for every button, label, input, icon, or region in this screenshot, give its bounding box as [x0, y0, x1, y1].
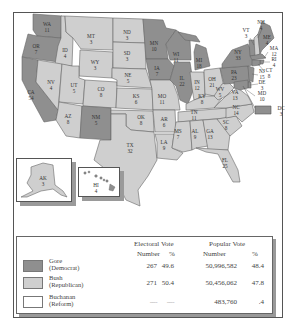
pv-number: 483,760: [214, 298, 237, 306]
alaska-shape: AK3: [17, 159, 71, 201]
svg-text:18: 18: [196, 63, 202, 69]
svg-text:22: 22: [179, 81, 185, 87]
svg-text:4: 4: [64, 53, 67, 59]
svg-text:25: 25: [222, 163, 228, 169]
svg-text:9: 9: [194, 134, 197, 140]
pv-percent: 47.8: [252, 279, 264, 287]
candidate-label: Buchanan (Reform): [49, 294, 75, 308]
svg-text:11: 11: [160, 99, 165, 105]
pv-percent: 48.4: [252, 262, 264, 270]
state-dc: [255, 106, 271, 114]
state-fl: [196, 148, 240, 182]
svg-text:13: 13: [207, 134, 213, 140]
svg-text:3: 3: [126, 35, 129, 41]
electoral-vote-header: Electoral Vote: [134, 240, 174, 248]
svg-text:5: 5: [95, 120, 98, 126]
svg-text:8: 8: [201, 99, 204, 105]
pv-percent: .4: [259, 298, 264, 306]
svg-text:8: 8: [100, 92, 103, 98]
candidate-label: Gore (Democrat): [49, 258, 79, 272]
svg-text:7: 7: [35, 49, 38, 55]
ev-percent-header: %: [169, 250, 175, 258]
ev-percent: 50.4: [162, 279, 174, 287]
ev-number-header: Number: [137, 250, 160, 258]
svg-text:11: 11: [174, 57, 179, 63]
legend-row-gore: Gore (Democrat) 267 49.6 50,996,582 48.4: [17, 258, 272, 274]
alaska-inset: AK3: [16, 158, 72, 202]
pv-number: 50,456,062: [206, 279, 238, 287]
legend-row-buchanan: Buchanan (Reform) ---- ---- 483,760 .4: [17, 294, 272, 310]
svg-text:9: 9: [163, 145, 166, 151]
svg-text:8: 8: [268, 73, 271, 79]
svg-text:5: 5: [219, 92, 222, 98]
popular-vote-header: Popular Vote: [209, 240, 245, 248]
ev-percent: ----: [167, 298, 174, 306]
svg-text:6: 6: [135, 99, 138, 105]
ev-percent: 49.6: [162, 262, 174, 270]
svg-text:11: 11: [192, 115, 197, 121]
svg-text:4: 4: [95, 188, 98, 194]
svg-text:3: 3: [94, 65, 97, 71]
pv-number-header: Number: [203, 250, 226, 258]
ev-number: ----: [150, 298, 157, 306]
pv-percent-header: %: [252, 250, 258, 258]
svg-text:32: 32: [127, 148, 133, 154]
candidate-label: Bush (Republican): [49, 275, 83, 289]
svg-text:13: 13: [232, 95, 238, 101]
svg-text:54: 54: [28, 95, 34, 101]
svg-text:3: 3: [42, 181, 45, 187]
svg-text:6: 6: [163, 122, 166, 128]
svg-text:21: 21: [209, 82, 215, 88]
state-ne: [112, 68, 152, 88]
svg-text:33: 33: [235, 55, 241, 61]
svg-text:4: 4: [266, 40, 269, 46]
svg-text:8: 8: [67, 119, 70, 125]
election-legend-buchanan: Buchanan (Reform) ---- ---- 483,760 .4: [16, 292, 273, 314]
hawaii-shape: HI4: [79, 168, 119, 196]
state-ia: [146, 59, 174, 80]
ev-number: 267: [147, 262, 158, 270]
svg-text:14: 14: [233, 110, 239, 116]
svg-text:8: 8: [140, 120, 143, 126]
svg-text:3: 3: [280, 111, 283, 117]
svg-text:23: 23: [231, 75, 237, 81]
svg-text:10: 10: [259, 96, 265, 102]
gore-swatch: [23, 260, 43, 272]
svg-text:7: 7: [156, 71, 159, 77]
svg-text:3: 3: [90, 39, 93, 45]
svg-text:12: 12: [194, 85, 200, 91]
svg-text:5: 5: [127, 78, 130, 84]
svg-text:4: 4: [50, 85, 53, 91]
bush-swatch: [23, 277, 43, 289]
legend-row-bush: Bush (Republican) 271 50.4 50,456,062 47…: [17, 275, 272, 291]
svg-text:7: 7: [177, 134, 180, 140]
svg-text:4: 4: [273, 62, 276, 68]
pv-number: 50,996,582: [206, 262, 238, 270]
svg-text:3: 3: [126, 56, 129, 62]
ev-number: 271: [147, 279, 158, 287]
svg-text:10: 10: [151, 46, 157, 52]
svg-text:3: 3: [245, 33, 248, 39]
hawaii-inset: HI4: [78, 167, 120, 197]
svg-text:5: 5: [73, 88, 76, 94]
buchanan-swatch: [23, 296, 43, 308]
svg-text:8: 8: [225, 125, 228, 131]
svg-text:4: 4: [260, 25, 263, 31]
svg-text:11: 11: [45, 27, 50, 33]
